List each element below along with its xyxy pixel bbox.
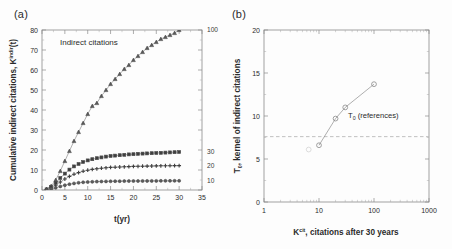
marker-10	[178, 179, 181, 182]
svg-text:T0, kernel of indirect citatio: T0, kernel of indirect citations	[233, 58, 243, 173]
marker-100	[63, 159, 67, 163]
marker-10	[118, 180, 121, 183]
svg-text:Cumulative indirect citations,: Cumulative indirect citations, Kindir(t)	[8, 39, 18, 181]
panel-b-label: (b)	[232, 8, 246, 20]
marker-20	[136, 164, 140, 168]
panel-b-xlabel: Kcit, citations after 30 years	[293, 227, 399, 237]
panel-a: (a) 01020304050607080 05101520253035 100…	[0, 0, 226, 249]
marker-20	[168, 164, 172, 168]
marker-100	[95, 101, 99, 105]
t0-references-annotation: T0 (references)	[348, 111, 399, 121]
marker-20	[159, 164, 163, 168]
marker-20	[127, 165, 131, 169]
panel-a-xtick-30: 30	[175, 194, 183, 201]
panel-a-ylabel: Cumulative indirect citations, Kindir(t)	[8, 39, 18, 181]
panel-a-xtick-25: 25	[152, 194, 160, 201]
marker-30	[173, 151, 176, 154]
marker-20	[68, 175, 72, 179]
marker-30	[82, 161, 85, 164]
marker-30	[73, 165, 76, 168]
marker-10	[164, 179, 167, 182]
marker-30	[114, 154, 117, 157]
indirect-citations-annotation: Indirect citations	[60, 38, 118, 47]
curve-end-label-10: 10	[207, 177, 215, 184]
marker-100	[150, 43, 154, 47]
panel-a-xtick-15: 15	[107, 194, 115, 201]
marker-30	[109, 155, 112, 158]
marker-10	[114, 180, 117, 183]
marker-20	[100, 166, 104, 170]
marker-30	[63, 172, 66, 175]
marker-100	[86, 112, 90, 116]
panel-b-xlabel-tail: , citations after 30 years	[305, 228, 399, 237]
marker-10	[63, 184, 66, 187]
panel-a-ylabel-sup: indir	[8, 47, 14, 58]
marker-30	[77, 163, 80, 166]
marker-10	[82, 181, 85, 184]
panel-a-ytick-10: 10	[30, 167, 38, 174]
panel-a-ytick-30: 30	[30, 127, 38, 134]
panel-a-ytick-20: 20	[30, 147, 38, 154]
series-10	[45, 179, 181, 191]
marker-10	[150, 179, 153, 182]
panel-a-xtick-35: 35	[198, 194, 206, 201]
marker-30	[59, 177, 62, 180]
marker-100	[68, 149, 72, 153]
panel-a-xtick-20: 20	[130, 194, 138, 201]
panel-a-y-axis: 01020304050607080	[30, 27, 202, 194]
marker-30	[105, 155, 108, 158]
marker-10	[173, 179, 176, 182]
panel-b-y-axis: 05101520	[252, 27, 429, 206]
marker-10	[86, 181, 89, 184]
panel-b-frame	[264, 30, 429, 202]
marker-20	[72, 172, 76, 176]
marker-100	[173, 31, 177, 35]
panel-b: (b) 05101520 1101001000 T0 (references) …	[226, 0, 452, 249]
marker-30	[155, 152, 158, 155]
marker-20	[118, 165, 122, 169]
marker-20	[77, 171, 81, 175]
curve-end-label-20: 20	[207, 162, 215, 169]
panel-b-xtick-1: 1	[262, 207, 266, 214]
panel-a-xlabel: t(yr)	[114, 215, 130, 224]
marker-30	[68, 168, 71, 171]
curve-end-label-30: 30	[207, 148, 215, 155]
marker-20	[95, 167, 99, 171]
marker-10	[105, 180, 108, 183]
panel-b-ytick-5: 5	[256, 156, 260, 163]
marker-30	[146, 152, 149, 155]
marker-10	[91, 180, 94, 183]
panel-a-ylabel-main: Cumulative indirect citations, K	[9, 58, 18, 180]
panel-a-plot: 01020304050607080 05101520253035 1003020…	[0, 0, 226, 249]
panel-b-ytick-15: 15	[252, 70, 260, 77]
marker-10	[95, 180, 98, 183]
panel-b-ytick-0: 0	[256, 199, 260, 206]
panel-a-xtick-10: 10	[84, 194, 92, 201]
marker-20	[173, 164, 177, 168]
marker-30	[95, 157, 98, 160]
figure-container: (a) 01020304050607080 05101520253035 100…	[0, 0, 452, 249]
marker-10	[123, 180, 126, 183]
marker-30	[132, 153, 135, 156]
panel-b-ytick-20: 20	[252, 27, 260, 34]
marker-10	[45, 188, 48, 191]
marker-30	[141, 152, 144, 155]
marker-30	[169, 151, 172, 154]
panel-a-xtick-5: 5	[63, 194, 67, 201]
marker-20	[86, 168, 90, 172]
marker-10	[73, 182, 76, 185]
marker-10	[132, 180, 135, 183]
marker-20	[132, 165, 136, 169]
marker-10	[137, 180, 140, 183]
marker-100	[72, 139, 76, 143]
marker-10	[141, 179, 144, 182]
marker-10	[59, 185, 62, 188]
marker-10	[100, 180, 103, 183]
marker-10	[68, 183, 71, 186]
marker-100	[90, 104, 94, 108]
panel-b-xtick-1000: 1000	[421, 207, 437, 214]
marker-10	[77, 181, 80, 184]
panel-a-label: (a)	[14, 8, 28, 20]
data-point-1	[317, 143, 322, 148]
marker-30	[86, 159, 89, 162]
